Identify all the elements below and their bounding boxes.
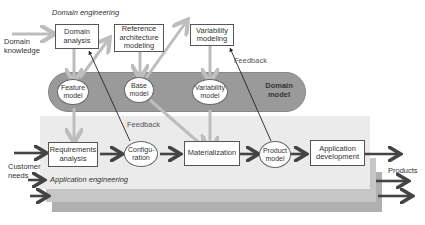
reference-architecture-modeling-box: Reference architecture modeling	[114, 24, 164, 52]
domain-model-label: Domain model	[264, 82, 294, 99]
configuration-ellipse: Configu- ration	[124, 141, 158, 167]
products-label: Products	[388, 167, 418, 176]
materialization-box: Materialization	[184, 141, 240, 166]
variability-modeling-box: Variability modeling	[190, 24, 234, 46]
configuration-label: Configu- ration	[128, 146, 154, 162]
application-development-box: Application development	[310, 140, 365, 166]
feature-model-ellipse: Feature model	[57, 79, 89, 105]
materialization-label: Materialization	[188, 149, 236, 158]
product-model-ellipse: Product model	[259, 141, 291, 168]
feedback-label-bottom: Feedback	[127, 121, 160, 130]
customer-needs-label: Customer needs	[8, 163, 38, 180]
domain-analysis-label: Domain analysis	[56, 28, 98, 45]
feedback-label-top: Feedback	[234, 57, 267, 66]
variability-modeling-label: Variability modeling	[191, 27, 233, 44]
variability-model-label: Variability model	[193, 84, 227, 100]
application-development-label: Application development	[311, 145, 364, 162]
requirements-analysis-label: Requirements analysis	[49, 146, 97, 163]
feature-model-label: Feature model	[58, 84, 88, 100]
variability-model-ellipse: Variability model	[192, 79, 228, 105]
reference-architecture-modeling-label: Reference architecture modeling	[115, 25, 163, 51]
domain-engineering-label: Domain engineering	[52, 8, 119, 17]
requirements-analysis-box: Requirements analysis	[48, 142, 98, 167]
base-model-label: Base model	[125, 82, 153, 98]
domain-knowledge-label: Domain knowledge	[4, 38, 44, 55]
application-engineering-label: Application engineering	[50, 175, 128, 184]
base-model-ellipse: Base model	[124, 77, 154, 103]
product-model-label: Product model	[262, 147, 288, 163]
domain-analysis-box: Domain analysis	[55, 24, 99, 49]
